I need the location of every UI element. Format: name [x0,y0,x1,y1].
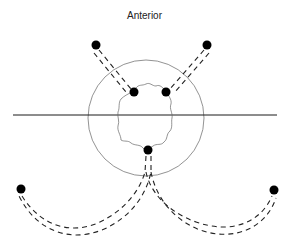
dot-inner-bottom [144,146,153,155]
dot-inner-right [162,88,171,97]
bottom-right-path [146,172,276,234]
diagram-canvas [0,0,289,252]
dot-top-left [92,41,101,50]
top-right-path [170,50,209,92]
bottom-left-path [19,156,151,235]
dot-bottom-right [270,186,279,195]
dot-inner-left [130,88,139,97]
dot-bottom-left [17,185,26,194]
dot-top-right [203,41,212,50]
